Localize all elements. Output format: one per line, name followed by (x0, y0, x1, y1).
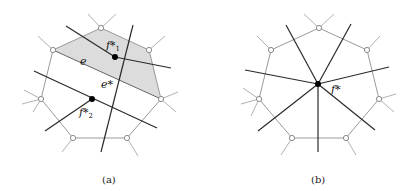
label-edge-e: e (80, 55, 87, 68)
dual-edges-b (245, 24, 389, 152)
label-f-star: f* (330, 83, 341, 96)
panel-a: f*1 f*2 e e* (a) (22, 14, 178, 185)
caption-a: (a) (102, 174, 116, 185)
dual-vertex-f (315, 81, 321, 87)
panel-b: f* (b) (241, 14, 396, 185)
label-dual-edge: e* (101, 78, 114, 91)
dual-vertex-f1 (112, 54, 118, 60)
caption-b: (b) (311, 174, 325, 185)
figure-canvas: f*1 f*2 e e* (a) (0, 0, 417, 191)
dual-vertex-f2 (89, 96, 95, 102)
label-f2: f*2 (78, 106, 93, 120)
